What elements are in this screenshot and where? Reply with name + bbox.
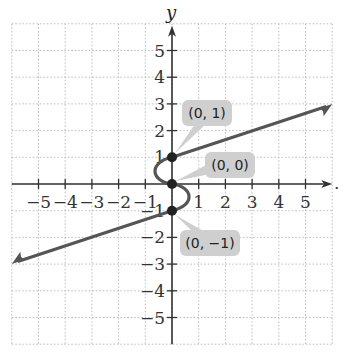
x-tick-label: −2 <box>106 192 131 212</box>
y-tick-label: 5 <box>154 41 165 61</box>
y-tick-label: −2 <box>140 227 165 247</box>
y-tick-label: −4 <box>140 281 165 301</box>
y-tick-label: 4 <box>154 67 165 87</box>
x-tick-label: 2 <box>220 192 231 212</box>
y-tick-label: −3 <box>140 254 165 274</box>
x-axis-end-dot: . <box>334 173 339 193</box>
x-tick-label: 1 <box>193 192 204 212</box>
y-tick-label: 3 <box>154 94 165 114</box>
point-label: (0, 1) <box>188 105 226 121</box>
point-label: (0, 0) <box>211 157 249 173</box>
callouts: (0, 1)(0, 0)(0, −1) <box>175 100 255 256</box>
point-label: (0, −1) <box>185 235 234 251</box>
x-tick-label: −4 <box>53 192 78 212</box>
x-tick-label: −5 <box>26 192 51 212</box>
y-tick-label: 2 <box>154 121 165 141</box>
data-point <box>167 152 177 162</box>
graph: −5−4−3−2−11234554321−1−2−3−4−5 (0, 1)(0,… <box>0 0 341 356</box>
x-tick-label: 5 <box>300 192 311 212</box>
data-point <box>167 206 177 216</box>
x-tick-label: 3 <box>247 192 258 212</box>
x-tick-label: 4 <box>273 192 284 212</box>
callout-pointer <box>175 215 205 232</box>
data-point <box>167 179 177 189</box>
upper-arrow-icon <box>320 104 335 117</box>
y-tick-label: −5 <box>140 308 165 328</box>
y-axis-label: y <box>165 2 177 23</box>
x-tick-label: −3 <box>79 192 104 212</box>
points <box>167 152 177 215</box>
callout-pointer <box>176 163 210 181</box>
lower-arrow-icon <box>9 251 24 264</box>
